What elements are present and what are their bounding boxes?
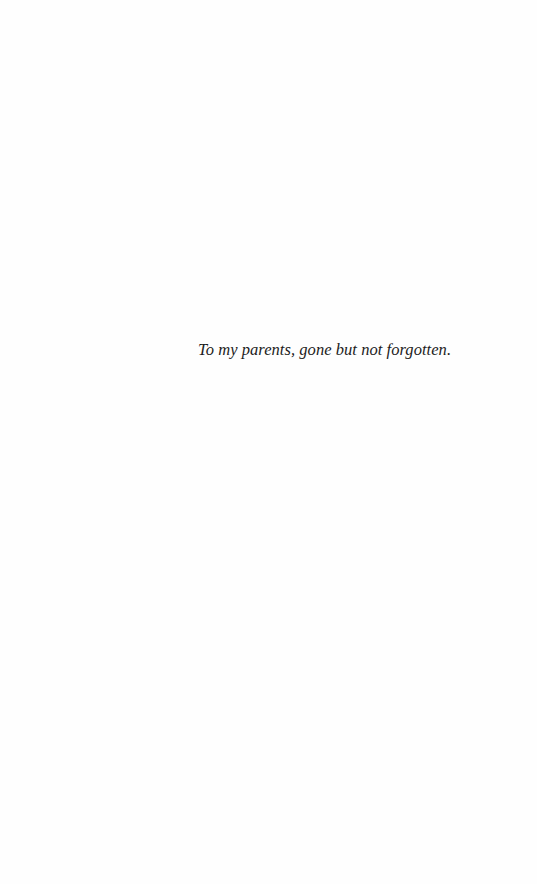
dedication-text: To my parents, gone but not forgotten. [198,340,451,360]
book-page: To my parents, gone but not forgotten. [0,0,537,884]
